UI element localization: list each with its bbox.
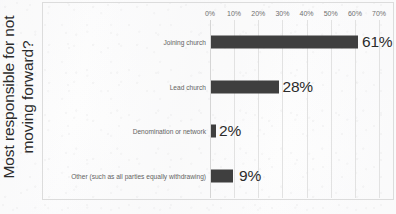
bar[interactable] [211, 36, 358, 49]
y-axis-title-line-1: Most responsible for not [0, 16, 18, 179]
category-label: Other (such as all parties equally withd… [71, 171, 206, 180]
bar[interactable] [211, 169, 233, 182]
category-label: Denomination or network [133, 127, 206, 136]
bar-value-label: 28% [283, 78, 313, 96]
x-tick-label: 20% [251, 8, 265, 19]
bar[interactable] [211, 80, 279, 93]
x-tick-label: 60% [348, 8, 362, 19]
bar-row: Other (such as all parties equally withd… [210, 154, 379, 199]
bar-row: Lead church 28% [210, 65, 379, 110]
plot-area: Joining church 61% Lead church 28% Denom… [210, 20, 379, 198]
x-tick-label: 10% [227, 8, 241, 19]
x-tick-label: 50% [324, 8, 338, 19]
category-label: Lead church [170, 82, 206, 91]
bar-value-label: 2% [219, 122, 241, 140]
chart-page: Most responsible for not moving forward?… [0, 0, 396, 214]
bar-value-label: 61% [362, 33, 392, 51]
bar-value-label: 9% [239, 167, 261, 185]
y-axis-title-line-2: moving forward? [18, 40, 37, 153]
y-axis-title: Most responsible for not moving forward? [0, 0, 38, 195]
x-tick-label: 70% [372, 8, 386, 19]
x-tick-label: 40% [300, 8, 314, 19]
bar-row: Denomination or network 2% [210, 109, 379, 154]
x-axis-tick-labels: 0% 10% 20% 30% 40% 50% 60% 70% [210, 8, 379, 19]
bar[interactable] [211, 125, 216, 138]
category-label: Joining church [163, 38, 206, 47]
bar-row: Joining church 61% [210, 20, 379, 65]
x-tick-label: 30% [275, 8, 289, 19]
x-tick-label: 0% [205, 8, 215, 19]
